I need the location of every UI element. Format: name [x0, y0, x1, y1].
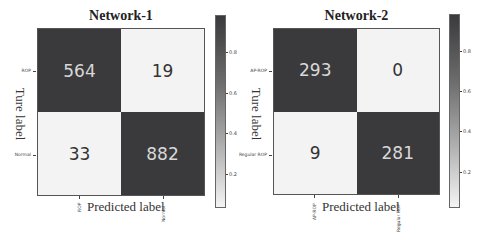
colorbar: [449, 14, 460, 208]
matrix-cell: 9: [274, 112, 357, 195]
colorbar-tick-label: 0.6: [463, 88, 471, 94]
x-tick-mark: [314, 195, 315, 198]
colorbar-tick-label: 0.2: [229, 171, 237, 177]
y-tick-mark: [269, 155, 272, 156]
y-tick-mark: [33, 71, 36, 72]
colorbar-tick-mark: [460, 172, 462, 173]
colorbar-tick-label: 0.2: [463, 169, 471, 175]
y-tick-label: Regular ROP: [226, 152, 267, 157]
y-tick-label: ROP: [0, 68, 31, 73]
colorbar-tick-mark: [226, 133, 228, 134]
confusion-matrix: 564 19 33 882: [37, 28, 205, 196]
chart-title: Network-1: [37, 8, 205, 24]
x-tick-mark: [398, 195, 399, 198]
colorbar-tick-label: 0.4: [463, 128, 471, 134]
colorbar: [215, 15, 226, 208]
y-tick-label: AP-ROP: [226, 68, 267, 73]
matrix-cell: 564: [38, 29, 121, 112]
chart-title: Network-2: [273, 8, 440, 24]
x-tick-label: AP-ROP: [312, 203, 317, 220]
y-axis-label: Ture label: [12, 84, 28, 144]
matrix-cell: 0: [357, 29, 440, 112]
x-tick-mark: [79, 196, 80, 199]
y-tick-label: Normal: [0, 152, 31, 157]
colorbar-tick-mark: [460, 91, 462, 92]
matrix-cell: 293: [274, 29, 357, 112]
colorbar-tick-mark: [460, 131, 462, 132]
colorbar-tick-label: 0.8: [229, 49, 237, 55]
matrix-cell: 19: [121, 29, 204, 112]
colorbar-tick-mark: [460, 51, 462, 52]
colorbar-tick-label: 0.8: [463, 48, 471, 54]
colorbar-tick-mark: [226, 174, 228, 175]
matrix-cell: 281: [357, 112, 440, 195]
x-tick-label: ROP: [77, 203, 82, 212]
y-axis-label: Ture label: [248, 84, 264, 144]
matrix-cell: 33: [38, 112, 121, 195]
colorbar-tick-mark: [226, 52, 228, 53]
x-axis-label: Predicted label: [322, 199, 400, 215]
y-tick-mark: [33, 155, 36, 156]
x-axis-label: Predicted label: [87, 199, 165, 215]
colorbar-tick-label: 0.6: [229, 90, 237, 96]
colorbar-tick-label: 0.4: [229, 130, 237, 136]
colorbar-tick-mark: [226, 93, 228, 94]
matrix-cell: 882: [121, 112, 204, 195]
y-tick-mark: [269, 71, 272, 72]
confusion-matrix: 293 0 9 281: [273, 28, 440, 195]
